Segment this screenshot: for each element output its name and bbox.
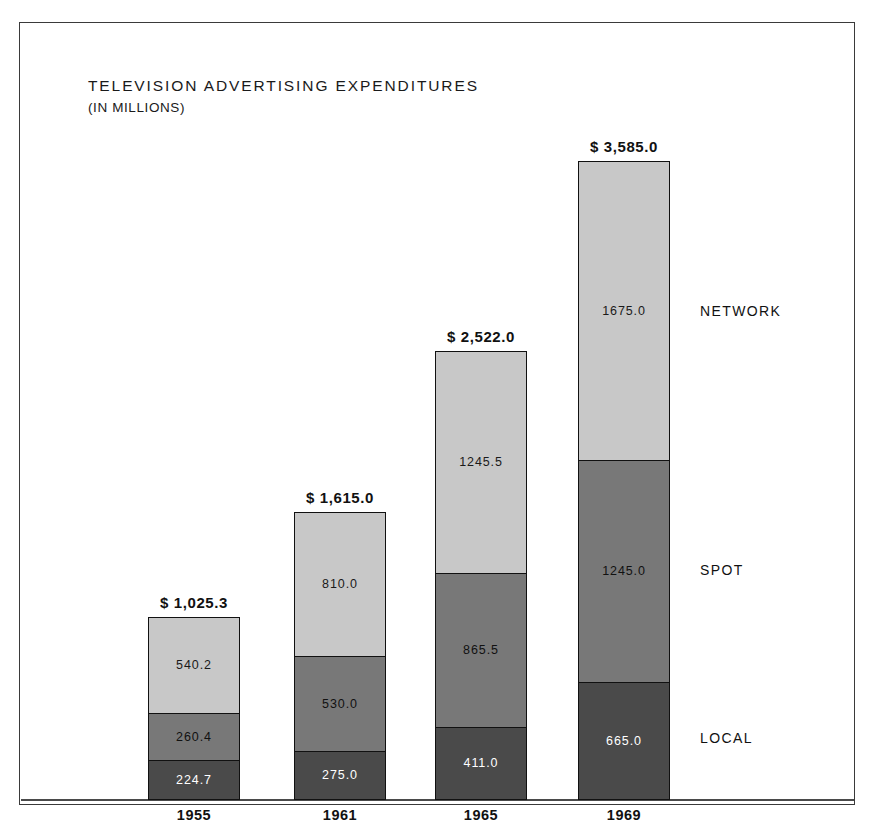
bar-segment-network-1965[interactable]: 1245.5 bbox=[435, 351, 527, 573]
segment-value-spot-1969: 1245.0 bbox=[602, 565, 646, 578]
segment-value-network-1965: 1245.5 bbox=[459, 456, 503, 469]
bar-group-1969: $ 3,585.0 1675.0 1245.0 665.0 bbox=[578, 161, 670, 800]
x-axis-tick-1965: 1965 bbox=[435, 807, 527, 823]
bar-total-label-1955: $ 1,025.3 bbox=[136, 594, 252, 611]
segment-value-local-1955: 224.7 bbox=[176, 774, 212, 787]
legend-label-network: NETWORK bbox=[700, 303, 781, 319]
bar-segment-local-1969[interactable]: 665.0 bbox=[578, 682, 670, 800]
segment-value-spot-1965: 865.5 bbox=[463, 644, 499, 657]
bar-segment-network-1969[interactable]: 1675.0 bbox=[578, 161, 670, 460]
bar-segment-spot-1961[interactable]: 530.0 bbox=[294, 656, 386, 751]
stacked-bar-1969[interactable]: 1675.0 1245.0 665.0 bbox=[578, 161, 670, 800]
stacked-bar-1955[interactable]: 540.2 260.4 224.7 bbox=[148, 617, 240, 800]
stacked-bar-1961[interactable]: 810.0 530.0 275.0 bbox=[294, 512, 386, 800]
bar-segment-spot-1969[interactable]: 1245.0 bbox=[578, 460, 670, 682]
segment-value-network-1969: 1675.0 bbox=[602, 305, 646, 318]
bar-segment-network-1955[interactable]: 540.2 bbox=[148, 617, 240, 713]
bar-segment-network-1961[interactable]: 810.0 bbox=[294, 512, 386, 656]
legend-label-spot: SPOT bbox=[700, 562, 744, 578]
x-axis-tick-1955: 1955 bbox=[148, 807, 240, 823]
bar-group-1961: $ 1,615.0 810.0 530.0 275.0 bbox=[294, 512, 386, 800]
legend-label-local: LOCAL bbox=[700, 730, 753, 746]
segment-value-network-1961: 810.0 bbox=[322, 578, 358, 591]
segment-value-spot-1955: 260.4 bbox=[176, 731, 212, 744]
plot-area: $ 1,025.3 540.2 260.4 224.7 1955 $ 1,615… bbox=[0, 0, 873, 838]
bar-segment-local-1955[interactable]: 224.7 bbox=[148, 760, 240, 800]
bar-segment-local-1961[interactable]: 275.0 bbox=[294, 751, 386, 800]
segment-value-local-1965: 411.0 bbox=[464, 757, 499, 770]
bar-segment-spot-1965[interactable]: 865.5 bbox=[435, 573, 527, 727]
segment-value-local-1969: 665.0 bbox=[606, 735, 642, 748]
bar-segment-local-1965[interactable]: 411.0 bbox=[435, 727, 527, 800]
bar-group-1965: $ 2,522.0 1245.5 865.5 411.0 bbox=[435, 351, 527, 800]
bar-total-label-1965: $ 2,522.0 bbox=[423, 328, 539, 345]
x-axis-tick-1969: 1969 bbox=[578, 807, 670, 823]
segment-value-network-1955: 540.2 bbox=[176, 659, 212, 672]
chart-root: TELEVISION ADVERTISING EXPENDITURES (IN … bbox=[0, 0, 873, 838]
bar-total-label-1961: $ 1,615.0 bbox=[282, 489, 398, 506]
bar-total-label-1969: $ 3,585.0 bbox=[566, 138, 682, 155]
segment-value-local-1961: 275.0 bbox=[322, 769, 358, 782]
x-axis-tick-1961: 1961 bbox=[294, 807, 386, 823]
bar-group-1955: $ 1,025.3 540.2 260.4 224.7 bbox=[148, 617, 240, 800]
segment-value-spot-1961: 530.0 bbox=[322, 698, 358, 711]
bar-segment-spot-1955[interactable]: 260.4 bbox=[148, 713, 240, 760]
stacked-bar-1965[interactable]: 1245.5 865.5 411.0 bbox=[435, 351, 527, 800]
